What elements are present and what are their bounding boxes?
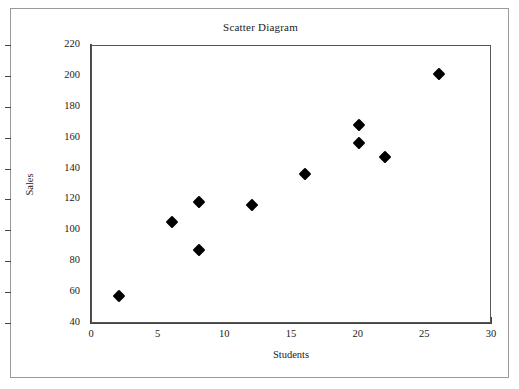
y-axis-tick-mark [5,323,11,324]
data-point-marker [299,168,312,181]
y-axis-tick-label: 220 [64,38,80,49]
y-axis-tick-mark [5,261,11,262]
chart-title: Scatter Diagram [11,21,510,33]
y-axis-title: Sales [19,45,39,323]
data-point-marker [192,243,205,256]
x-axis-tick-label: 5 [155,328,160,339]
data-point-marker [379,151,392,164]
data-point-marker [432,67,445,80]
x-axis-tick-label: 10 [219,328,230,339]
y-axis-tick-mark [5,107,11,108]
x-axis-tick-label: 20 [352,328,363,339]
x-axis-tick-label: 30 [486,328,497,339]
x-axis-tick-label: 0 [88,328,93,339]
y-axis-tick-label: 100 [64,223,80,234]
x-axis-tick-label: 15 [286,328,297,339]
chart-frame: Scatter Diagram Sales 406080100120140160… [10,8,509,378]
y-axis-tick-mark [5,45,11,46]
y-axis-tick-label: 160 [64,131,80,142]
y-axis-tick-label: 80 [70,254,81,265]
y-axis-title-label: Sales [24,173,35,195]
y-axis-tick-mark [5,169,11,170]
y-axis-tick-mark [5,230,11,231]
data-point-marker [352,118,365,131]
y-axis-tick-label: 120 [64,192,80,203]
y-axis-tick-label: 140 [64,162,80,173]
y-axis-tick-mark [5,199,11,200]
data-point-marker [352,137,365,150]
x-axis-tick-mark [491,317,492,323]
data-point-marker [192,196,205,209]
y-axis-tick-mark [5,292,11,293]
data-point-marker [166,216,179,229]
x-axis-title: Students [91,349,491,360]
y-axis-tick-label: 40 [70,316,81,327]
y-axis-tick-label: 60 [70,285,81,296]
y-axis-tick-label: 200 [64,69,80,80]
y-axis-tick-mark [5,76,11,77]
data-point-marker [246,199,259,212]
y-axis-tick-label: 180 [64,100,80,111]
x-axis-tick-label: 25 [419,328,430,339]
plot-area [91,45,491,323]
data-point-marker [112,290,125,303]
y-axis-tick-mark [5,138,11,139]
